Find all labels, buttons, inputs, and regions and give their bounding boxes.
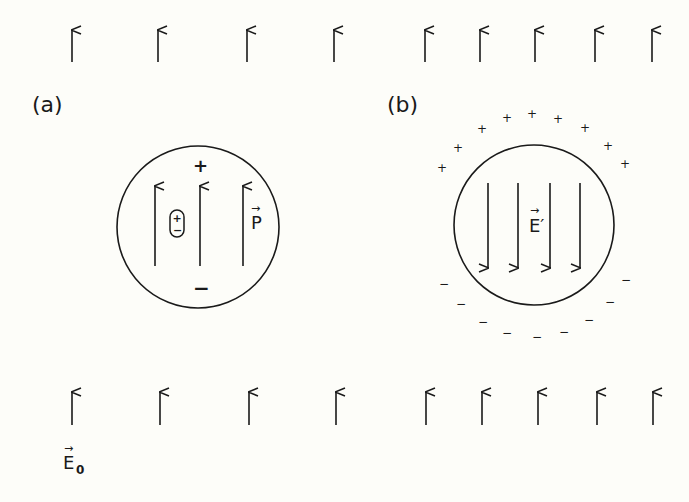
minus-charge: − <box>559 325 569 339</box>
external-field-arrows-top <box>72 30 652 62</box>
plus-charge: + <box>453 141 463 155</box>
dielectric-sphere-diagram: (a) (b) + − + − → P → <box>0 0 689 502</box>
svg-text:−: − <box>173 224 182 237</box>
plus-charge: + <box>580 121 590 135</box>
plus-charge: + <box>502 111 512 125</box>
polarization-vector-label: → P <box>251 202 262 233</box>
minus-charge: − <box>584 313 594 327</box>
minus-charge: − <box>621 273 631 287</box>
plus-charge: + <box>477 122 487 136</box>
minus-charge: − <box>456 297 466 311</box>
dipole-icon: + − <box>170 210 184 237</box>
minus-charge: − <box>478 315 488 329</box>
plus-charge: + <box>603 139 613 153</box>
svg-text:P: P <box>251 212 262 233</box>
panel-a-sphere: + − + − → P <box>117 146 279 308</box>
surface-positive-charges: + + + + + + + + + <box>437 107 630 175</box>
minus-charge: − <box>439 277 449 291</box>
panel-b-sphere: → E′ + + + + + + + + + − − − − − − − − − <box>437 107 631 344</box>
panel-b-label: (b) <box>387 92 418 117</box>
svg-text:0: 0 <box>76 463 84 477</box>
depolarization-vector-label: → E′ <box>529 204 544 236</box>
plus-charge: + <box>437 161 447 175</box>
plus-charge: + <box>527 107 537 121</box>
svg-text:E: E <box>63 452 74 473</box>
plus-charge: + <box>553 112 563 126</box>
external-field-label: → E 0 <box>63 442 84 477</box>
plus-charge: + <box>620 157 630 171</box>
external-field-arrows-bottom <box>72 392 653 425</box>
surface-plus-sign: + <box>193 155 208 176</box>
surface-negative-charges: − − − − − − − − − <box>439 273 631 344</box>
svg-text:E′: E′ <box>529 215 544 236</box>
minus-charge: − <box>605 295 615 309</box>
minus-charge: − <box>502 326 512 340</box>
minus-charge: − <box>532 330 542 344</box>
surface-minus-sign: − <box>193 276 210 300</box>
panel-a-label: (a) <box>32 92 63 117</box>
